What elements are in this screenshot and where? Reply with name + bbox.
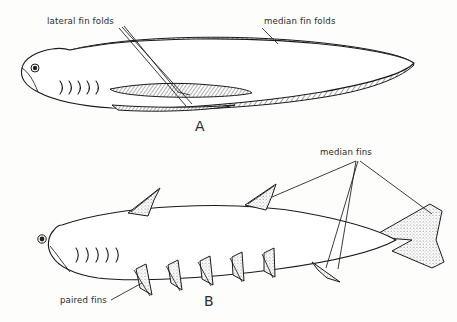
label-median-fin-folds: median fin folds: [264, 16, 336, 26]
fin-evolution-figure: lateral fin folds median fin folds A: [0, 0, 457, 322]
figure-root: lateral fin folds median fin folds A: [0, 0, 457, 322]
eye-pupil-b: [40, 237, 45, 242]
label-lateral-fin-folds: lateral fin folds: [47, 16, 114, 26]
eye-pupil-a: [33, 66, 37, 70]
panel-letter-b: B: [204, 293, 214, 309]
panel-letter-a: A: [195, 118, 205, 134]
label-median-fins: median fins: [320, 147, 372, 157]
label-paired-fins: paired fins: [60, 295, 107, 305]
